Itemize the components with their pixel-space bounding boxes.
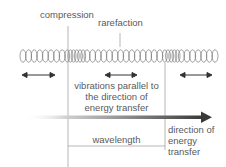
wavelength-label: wavelength — [68, 134, 165, 145]
vibrations-line-1: vibrations parallel to — [68, 80, 165, 91]
vibrations-label: vibrations parallel to the direction of … — [68, 80, 165, 113]
direction-line-1: direction of — [168, 124, 214, 135]
rarefaction-label: rarefaction — [98, 17, 143, 28]
double-arrow-left — [22, 73, 55, 78]
direction-of-energy-transfer-label: direction of energy transfer — [168, 124, 214, 157]
energy-transfer-arrow — [22, 112, 212, 124]
double-arrow-middle — [105, 73, 137, 78]
direction-line-3: transfer — [168, 146, 214, 157]
spring-coil — [20, 50, 218, 62]
vibrations-line-2: the direction of — [68, 91, 165, 102]
compression-label: compression — [40, 9, 94, 20]
vibrations-line-3: energy transfer — [68, 102, 165, 113]
double-arrow-right — [180, 73, 212, 78]
direction-line-2: energy — [168, 135, 214, 146]
